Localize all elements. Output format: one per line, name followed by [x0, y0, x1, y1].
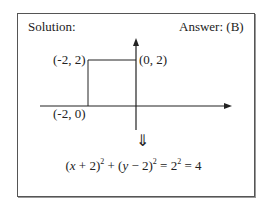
square-outline	[88, 60, 136, 106]
y-axis-arrow-icon	[133, 38, 139, 46]
coordinate-plot	[0, 0, 267, 205]
implies-arrow-icon: ⇓	[136, 134, 149, 148]
point-label-bottom-left: (-2, 0)	[53, 107, 86, 121]
x-axis-arrow-icon	[224, 103, 232, 109]
point-label-top-right: (0, 2)	[139, 53, 167, 67]
circle-equation: (x + 2)2 + (y − 2)2 = 22 = 4	[0, 157, 267, 174]
point-label-top-left: (-2, 2)	[53, 53, 86, 67]
